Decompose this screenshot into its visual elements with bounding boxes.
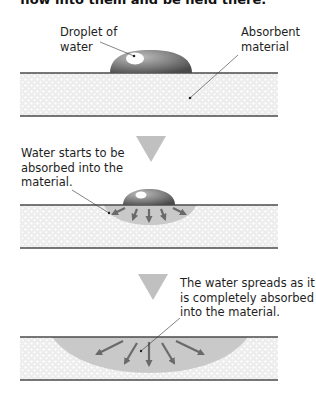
spread-label: The water spreads as it is completely ab… — [180, 276, 315, 320]
stage-1 — [20, 42, 278, 116]
droplet-highlight — [136, 192, 147, 199]
stage-2 — [20, 189, 278, 248]
step-down-triangle-1 — [136, 136, 166, 162]
droplet-label: Droplet of water — [60, 25, 117, 54]
absorption-diagram — [0, 0, 316, 395]
droplet-highlight — [126, 53, 144, 65]
absorb-start-label: Water starts to be absorbed into the mat… — [21, 146, 125, 190]
absorbent-material-layer — [20, 73, 278, 116]
stage-3 — [20, 318, 278, 380]
water-droplet — [123, 189, 175, 205]
water-droplet — [110, 50, 192, 73]
absorbent-material-label: Absorbent material — [241, 25, 300, 54]
step-down-triangle-2 — [138, 274, 168, 300]
